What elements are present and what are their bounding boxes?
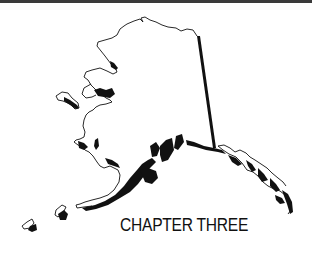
chapter-title: CHAPTER THREE (120, 214, 248, 236)
alaska-outline (22, 17, 291, 229)
alaska-shading (28, 36, 293, 232)
border-line (197, 36, 216, 148)
